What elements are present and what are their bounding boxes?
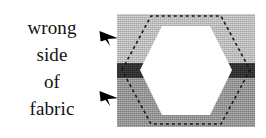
arrow-right-solid-icon <box>99 89 119 107</box>
arrow-right-solid-icon <box>99 29 119 47</box>
hexagon-patch-overlay <box>117 14 255 127</box>
hexagon-patch <box>140 26 232 115</box>
caption-line-4: fabric <box>6 95 98 122</box>
caption-line-2: side <box>6 41 98 68</box>
fabric-diagram-figure: wrong side of fabric <box>0 0 266 138</box>
caption-line-1: wrong <box>6 14 98 41</box>
fabric-panel <box>117 14 255 127</box>
caption-line-3: of <box>6 68 98 95</box>
caption-wrong-side-of-fabric: wrong side of fabric <box>6 14 98 122</box>
